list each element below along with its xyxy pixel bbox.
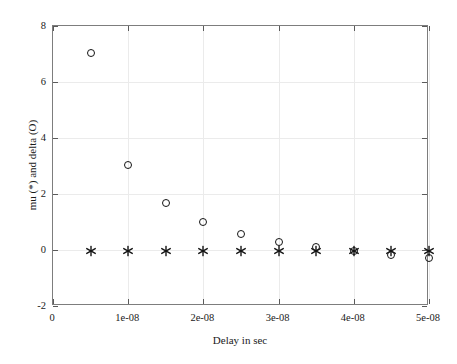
x-tick-label: 0 [49, 312, 54, 323]
y-tick-mark [53, 250, 58, 251]
x-tick-mark [53, 299, 54, 304]
y-tick-mark [53, 306, 58, 307]
y-tick-mark [422, 138, 427, 139]
data-point-circle [275, 238, 283, 246]
figure-canvas: 01e-082e-083e-084e-085e-08 -202468 Delay… [0, 0, 457, 364]
data-point-asterisk [386, 246, 397, 257]
x-tick-mark [429, 299, 430, 304]
x-axis-label: Delay in sec [52, 334, 428, 346]
data-point-circle [199, 218, 207, 226]
y-tick-mark [422, 194, 427, 195]
gridline-horizontal [53, 194, 427, 195]
plot-area [52, 25, 428, 305]
x-tick-mark [279, 299, 280, 304]
y-axis-label: mu (*) and delta (O) [26, 25, 38, 305]
gridline-horizontal [53, 138, 427, 139]
y-tick-mark [422, 306, 427, 307]
y-tick-mark [422, 82, 427, 83]
data-point-asterisk [85, 246, 96, 257]
x-tick-mark [203, 299, 204, 304]
x-tick-mark [279, 26, 280, 31]
x-tick-mark [128, 299, 129, 304]
x-tick-mark [354, 26, 355, 31]
data-point-circle [87, 49, 95, 57]
y-tick-mark [53, 138, 58, 139]
data-point-asterisk [123, 246, 134, 257]
x-tick-label: 2e-08 [190, 312, 214, 323]
x-tick-label: 1e-08 [115, 312, 139, 323]
data-point-asterisk [348, 246, 359, 257]
y-tick-mark [53, 82, 58, 83]
y-tick-mark [53, 194, 58, 195]
data-point-asterisk [273, 246, 284, 257]
gridline-vertical [203, 26, 204, 304]
x-tick-label: 4e-08 [341, 312, 365, 323]
data-point-circle [162, 199, 170, 207]
y-tick-mark [422, 26, 427, 27]
x-tick-mark [354, 299, 355, 304]
y-tick-mark [53, 26, 58, 27]
gridline-vertical [354, 26, 355, 304]
x-tick-label: 5e-08 [416, 312, 440, 323]
data-point-circle [237, 230, 245, 238]
gridline-vertical [279, 26, 280, 304]
x-tick-mark [203, 26, 204, 31]
x-tick-mark [429, 26, 430, 31]
data-point-circle [124, 161, 132, 169]
data-point-asterisk [236, 246, 247, 257]
gridline-vertical [429, 26, 430, 304]
x-tick-label: 3e-08 [266, 312, 290, 323]
data-point-asterisk [160, 246, 171, 257]
data-point-asterisk [311, 246, 322, 257]
data-point-asterisk [424, 246, 435, 257]
x-tick-mark [128, 26, 129, 31]
data-point-asterisk [198, 246, 209, 257]
gridline-horizontal [53, 82, 427, 83]
